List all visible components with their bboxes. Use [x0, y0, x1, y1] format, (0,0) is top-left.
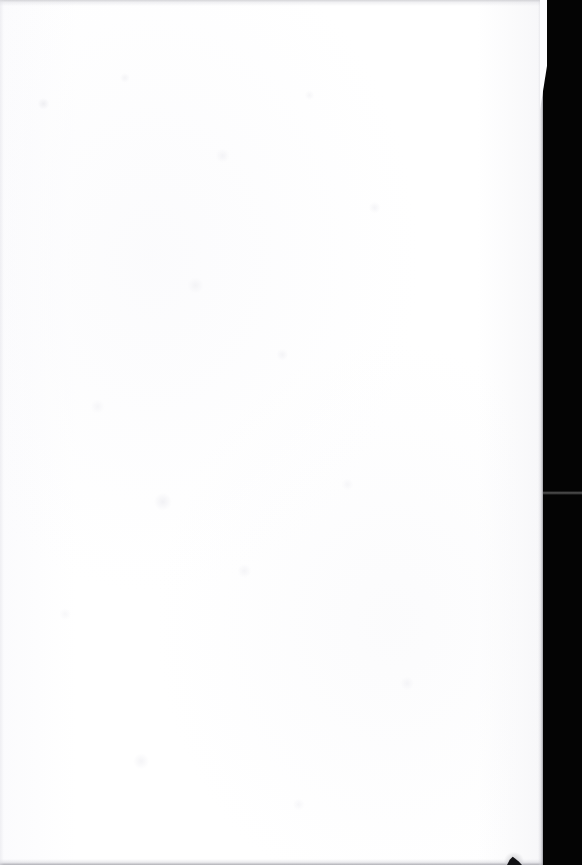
scanned-page-canvas: Blank scanned page with black scanner ba… [0, 0, 582, 865]
top-edge-shadow [0, 0, 543, 6]
bottom-edge-shadow [0, 859, 543, 865]
backdrop-seam-line [542, 491, 582, 495]
paper-grain-texture [0, 0, 543, 865]
paper-sheet [0, 0, 543, 865]
ink-smudge-mark [504, 852, 524, 865]
right-edge-shadow [538, 0, 543, 865]
left-edge-shadow [0, 0, 4, 865]
